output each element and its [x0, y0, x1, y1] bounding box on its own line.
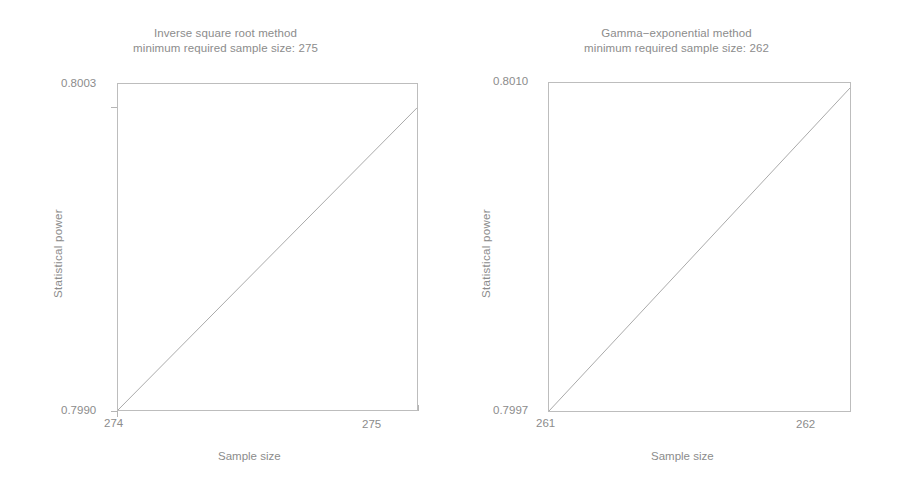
y-tick-label-left-top: 0.8003	[61, 77, 96, 90]
figure-canvas: Inverse square root method minimum requi…	[0, 0, 902, 500]
x-tick-label-left-start: 274	[104, 417, 123, 430]
x-tick-label-right-end: 262	[796, 418, 815, 431]
x-tick-label-left-end: 275	[362, 418, 381, 431]
chart-panel-inverse-square-root: Inverse square root method minimum requi…	[0, 0, 451, 500]
plot-area-right	[548, 82, 851, 412]
y-tick-label-right-bottom: 0.7997	[493, 404, 528, 417]
x-axis-label-left: Sample size	[218, 450, 281, 462]
panel-title-right-line2: minimum required sample size: 262	[451, 41, 902, 56]
data-line-left	[118, 84, 417, 410]
panel-title-right-line1: Gamma−exponential method	[601, 27, 751, 39]
plot-area-left	[117, 83, 418, 411]
panel-title-right: Gamma−exponential method minimum require…	[451, 26, 902, 56]
y-tick-mark-left-top	[111, 107, 117, 108]
panel-title-left: Inverse square root method minimum requi…	[0, 26, 451, 56]
y-tick-label-right-top: 0.8010	[493, 75, 528, 88]
x-axis-label-right: Sample size	[651, 450, 714, 462]
panel-title-left-line1: Inverse square root method	[154, 27, 297, 39]
y-tick-label-left-bottom: 0.7990	[61, 404, 96, 417]
y-axis-label-right: Statistical power	[480, 209, 492, 298]
x-tick-label-right-start: 261	[536, 417, 555, 430]
chart-panel-gamma-exponential: Gamma−exponential method minimum require…	[451, 0, 902, 500]
y-axis-label-left: Statistical power	[52, 209, 64, 298]
data-line-right	[549, 83, 850, 411]
panel-title-left-line2: minimum required sample size: 275	[0, 41, 451, 56]
x-tick-mark-left-end	[418, 405, 419, 411]
